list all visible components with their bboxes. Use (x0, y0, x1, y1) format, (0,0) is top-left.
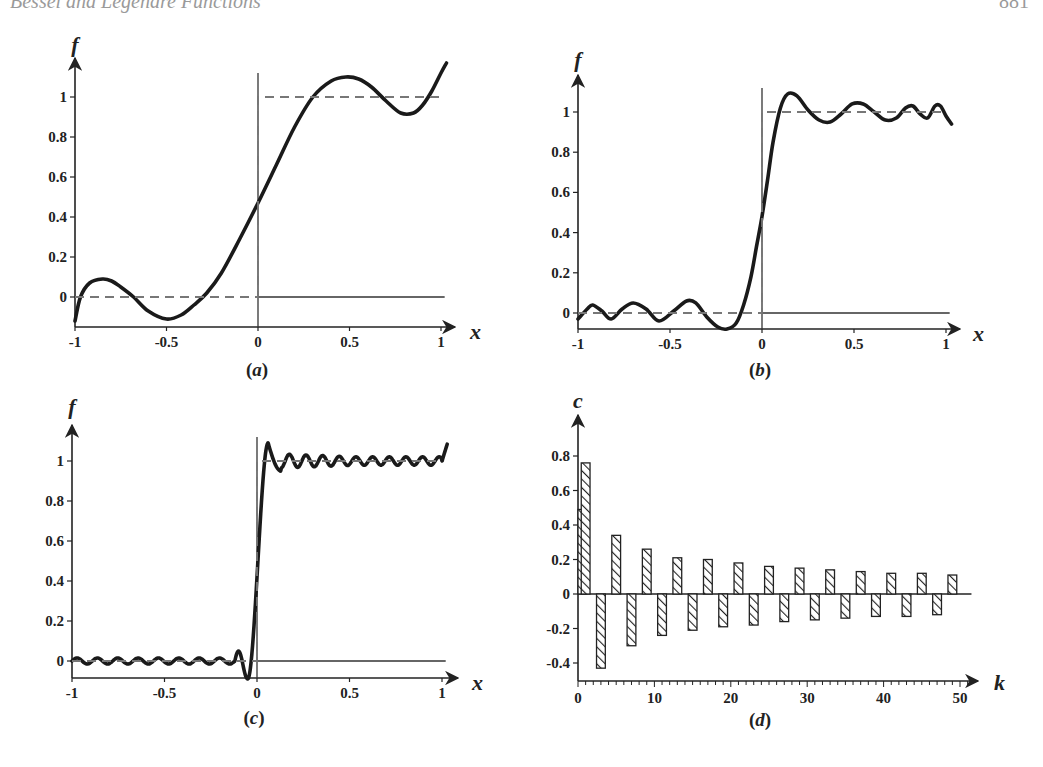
y-tick-label: 0.6 (551, 483, 570, 499)
y-tick-label: 0.8 (45, 493, 64, 509)
coefficient-bar (612, 535, 621, 594)
coefficient-bar (887, 573, 896, 594)
y-tick-label: 1 (60, 89, 68, 105)
x-tick-label: -0.5 (155, 334, 179, 350)
x-tick-label: 0 (758, 336, 766, 352)
y-tick-label: -0.4 (546, 655, 570, 671)
chart-panel-d: 01020304050-0.4-0.200.20.40.60.8ck(d) (546, 388, 1005, 731)
y-axis-label: c (573, 388, 583, 413)
approximation-curve (75, 63, 446, 321)
x-tick-label: 0.5 (845, 336, 864, 352)
x-tick-label: -1 (572, 336, 585, 352)
y-tick-label: 0.6 (551, 184, 570, 200)
coefficient-bar (658, 594, 667, 635)
coefficient-bar (765, 566, 774, 594)
y-tick-label: 0 (60, 289, 68, 305)
y-tick-label: 0.6 (48, 169, 67, 185)
coefficient-bar (933, 594, 942, 615)
coefficient-bar (688, 594, 697, 630)
y-axis-label: f (68, 394, 78, 419)
panel-label: (b) (749, 359, 771, 381)
coefficient-bar (719, 594, 728, 627)
y-tick-label: 0.4 (551, 517, 570, 533)
x-tick-label: 30 (800, 690, 815, 706)
coefficient-bar (703, 560, 712, 595)
coefficient-bar (826, 570, 835, 594)
x-axis-label: k (994, 670, 1005, 695)
coefficient-bar (581, 463, 590, 594)
x-tick-label: -1 (69, 334, 82, 350)
y-tick-label: 0 (563, 586, 571, 602)
coefficient-bar (795, 568, 804, 594)
y-tick-label: 0 (57, 653, 65, 669)
panel-label: (d) (749, 709, 771, 731)
x-tick-label: 0.5 (340, 685, 359, 701)
x-tick-label: 0.5 (340, 334, 359, 350)
coefficient-bar (856, 572, 865, 594)
coefficient-bar (780, 594, 789, 622)
coefficient-bar (734, 563, 743, 594)
chart-panel-b: 00.20.40.60.81-1-0.500.51fx(b) (551, 47, 984, 381)
x-tick-label: -1 (66, 685, 79, 701)
x-axis-label: x (471, 670, 483, 695)
coefficient-bar (948, 575, 957, 594)
y-tick-label: 0.2 (551, 552, 570, 568)
panel-label: (c) (243, 707, 264, 729)
y-tick-label: 0.8 (48, 129, 67, 145)
x-tick-label: 0 (574, 690, 582, 706)
y-tick-label: 0.2 (551, 265, 570, 281)
y-tick-label: 1 (563, 104, 571, 120)
y-tick-label: 0.4 (45, 573, 64, 589)
y-tick-label: 0.8 (551, 448, 570, 464)
figure: 00.20.40.60.81-1-0.500.51fx(a) 00.20.40.… (0, 0, 1043, 767)
coefficient-bar (917, 573, 926, 594)
x-tick-label: 40 (876, 690, 891, 706)
y-tick-label: 0 (563, 305, 571, 321)
coefficient-bar (673, 558, 682, 594)
y-tick-label: 0.2 (48, 249, 67, 265)
x-tick-label: 1 (437, 334, 445, 350)
y-axis-label: f (574, 47, 584, 72)
coefficient-bar (749, 594, 758, 625)
x-tick-label: 0 (254, 334, 262, 350)
coefficient-bar (627, 594, 636, 646)
coefficient-bar (841, 594, 850, 618)
x-tick-label: 0 (253, 685, 261, 701)
y-tick-label: 0.4 (48, 209, 67, 225)
approximation-curve (578, 93, 952, 329)
coefficient-bar (902, 594, 911, 616)
y-tick-label: 0.2 (45, 613, 64, 629)
x-tick-label: 10 (647, 690, 662, 706)
approximation-curve (72, 443, 447, 679)
panel-label: (a) (246, 359, 268, 381)
coefficient-bar (642, 549, 651, 594)
coefficient-bar (810, 594, 819, 620)
y-tick-label: 0.8 (551, 144, 570, 160)
y-axis-label: f (71, 32, 81, 57)
x-tick-label: 50 (953, 690, 968, 706)
y-tick-label: -0.2 (546, 621, 570, 637)
chart-panel-c: 00.20.40.60.81-1-0.500.51fx(c) (45, 394, 483, 729)
x-axis-label: x (469, 319, 481, 344)
chart-panel-a: 00.20.40.60.81-1-0.500.51fx(a) (48, 32, 481, 381)
x-tick-label: -0.5 (658, 336, 682, 352)
x-tick-label: -0.5 (153, 685, 177, 701)
y-tick-label: 0.4 (551, 225, 570, 241)
x-axis-label: x (972, 321, 984, 346)
y-tick-label: 0.6 (45, 533, 64, 549)
x-tick-label: 1 (438, 685, 446, 701)
x-tick-label: 20 (723, 690, 738, 706)
coefficient-bar (597, 594, 606, 668)
coefficient-bar (872, 594, 881, 616)
y-tick-label: 1 (57, 453, 65, 469)
x-tick-label: 1 (942, 336, 950, 352)
